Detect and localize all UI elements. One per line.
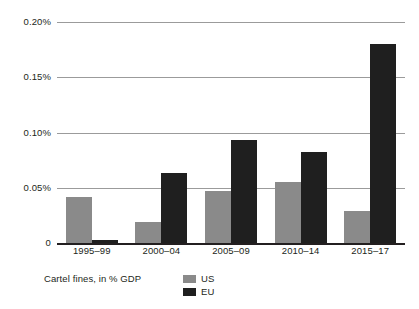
bar-eu-2010–14 [301,152,327,243]
legend-item-us: US [183,272,214,285]
y-tick-label: 0 [46,238,51,248]
plot-area [57,22,405,243]
bars-layer [57,22,405,243]
bar-eu-2005–09 [231,140,257,243]
x-tick-label: 2010–14 [266,246,336,256]
bar-eu-2015–17 [370,44,396,243]
y-tick-label: 0.10% [24,128,51,138]
y-tick-label: 0.20% [24,17,51,27]
legend-label: US [201,274,214,284]
x-axis-tick-labels: 1995–992000–042005–092010–142015–17 [57,246,405,262]
bar-eu-1995–99 [92,240,118,243]
x-tick-label: 2005–09 [196,246,266,256]
x-tick-label: 1995–99 [57,246,127,256]
legend-label: EU [201,287,214,297]
bar-us-1995–99 [66,197,92,243]
x-tick-label: 2000–04 [127,246,197,256]
y-tick-label: 0.05% [24,183,51,193]
legend-swatch-icon [183,288,196,296]
bar-us-2005–09 [205,191,231,243]
y-axis-tick-labels: 0.20%0.15%0.10%0.05%0 [0,22,51,243]
bar-us-2000–04 [135,222,161,243]
y-tick-label: 0.15% [24,72,51,82]
legend-title: Cartel fines, in % GDP [44,274,141,284]
legend-item-eu: EU [183,285,214,298]
bar-us-2010–14 [275,182,301,243]
bar-group [275,22,327,243]
bar-eu-2000–04 [161,173,187,243]
bar-group [135,22,187,243]
legend-entries: USEU [183,272,214,298]
bar-group [344,22,396,243]
cartel-fines-bar-chart: 0.20%0.15%0.10%0.05%0 1995–992000–042005… [0,0,419,309]
bar-group [205,22,257,243]
bar-group [66,22,118,243]
chart-legend: Cartel fines, in % GDP USEU [44,272,244,302]
bar-us-2015–17 [344,211,370,243]
x-tick-label: 2015–17 [335,246,405,256]
legend-swatch-icon [183,275,196,283]
